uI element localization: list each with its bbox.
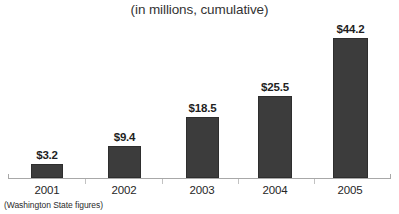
bars-layer: $3.2$9.4$18.5$25.5$44.2	[0, 24, 399, 178]
bar-group: $9.4	[108, 24, 141, 178]
category-label-2001: 2001	[22, 184, 72, 196]
x-axis-cap-left	[8, 174, 9, 179]
bar-2005	[333, 38, 368, 178]
x-axis-cap-right	[390, 174, 391, 179]
chart-title: (in millions, cumulative)	[0, 2, 399, 17]
x-axis-line	[8, 178, 391, 179]
x-axis-tick	[238, 179, 239, 184]
bar-value-label-2003: $18.5	[189, 102, 217, 114]
bar-2002	[108, 146, 141, 178]
bar-2004	[258, 96, 292, 178]
x-axis-tick	[162, 179, 163, 184]
bar-value-label-2002: $9.4	[114, 131, 136, 143]
bar-value-label-2004: $25.5	[261, 81, 289, 93]
plot-area: $3.2$9.4$18.5$25.5$44.2	[0, 24, 399, 178]
category-label-2004: 2004	[250, 184, 300, 196]
category-label-2003: 2003	[177, 184, 227, 196]
x-axis-tick	[314, 179, 315, 184]
bar-group: $3.2	[31, 24, 63, 178]
chart-footnote: (Washington State figures)	[4, 200, 103, 210]
bar-chart: (in millions, cumulative) $3.2$9.4$18.5$…	[0, 0, 399, 214]
bar-2001	[31, 164, 63, 178]
category-label-2002: 2002	[99, 184, 149, 196]
bar-group: $44.2	[333, 24, 368, 178]
category-label-2005: 2005	[325, 184, 375, 196]
bar-group: $18.5	[186, 24, 219, 178]
x-axis-tick	[85, 179, 86, 184]
bar-value-label-2005: $44.2	[337, 23, 365, 35]
bar-value-label-2001: $3.2	[36, 149, 58, 161]
bar-2003	[186, 117, 219, 178]
bar-group: $25.5	[258, 24, 292, 178]
